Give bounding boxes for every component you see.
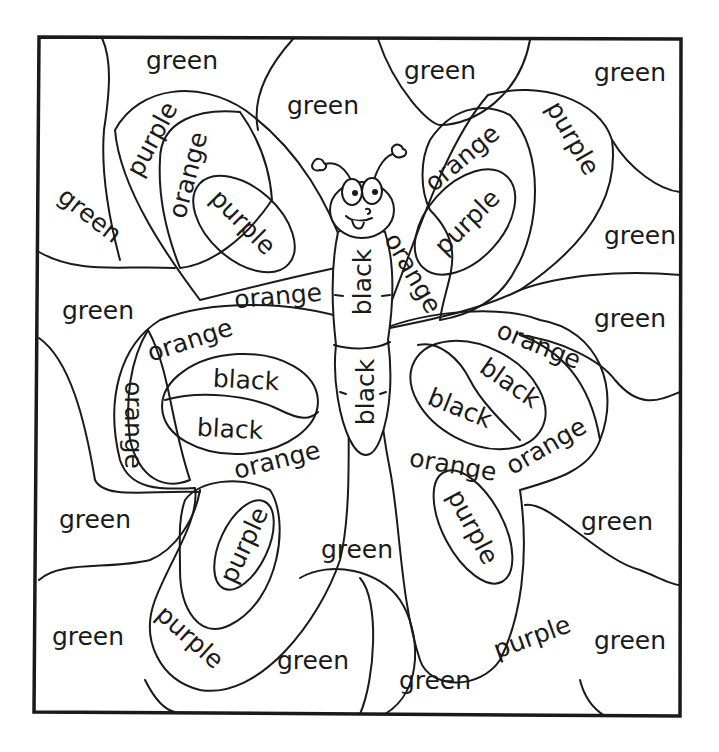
label-green: green <box>321 535 393 564</box>
label-black: black <box>424 382 497 434</box>
label-purple: purple <box>150 599 229 674</box>
label-purple: purple <box>204 183 281 260</box>
label-green: green <box>594 626 666 655</box>
label-green: green <box>52 622 124 651</box>
label-green: green <box>404 56 476 85</box>
label-green: green <box>604 221 676 250</box>
label-purple: purple <box>214 503 274 588</box>
label-black: black <box>348 248 377 315</box>
label-black: black <box>196 413 264 445</box>
label-green: green <box>287 91 359 120</box>
label-orange: orange <box>119 381 148 469</box>
lower-left-wing <box>114 305 350 691</box>
label-black: black <box>212 364 280 396</box>
label-green: green <box>146 46 218 75</box>
label-purple: purple <box>540 96 605 180</box>
label-orange: orange <box>163 129 214 222</box>
label-green: green <box>59 505 131 534</box>
label-green: green <box>594 58 666 87</box>
butterfly-head <box>312 145 406 238</box>
label-orange: orange <box>501 411 592 480</box>
coloring-sheet: green green green green green green gree… <box>0 0 719 752</box>
label-orange: orange <box>419 119 505 198</box>
word-labels: green green green green green green gree… <box>52 46 676 695</box>
label-green: green <box>277 646 349 675</box>
label-orange: orange <box>233 278 323 315</box>
label-orange: orange <box>407 443 499 487</box>
label-purple: purple <box>441 485 504 569</box>
label-black: black <box>351 358 380 425</box>
label-green: green <box>399 666 471 695</box>
label-green: green <box>53 181 128 248</box>
label-green: green <box>62 296 134 325</box>
label-green: green <box>594 304 666 333</box>
label-green: green <box>581 507 653 536</box>
label-purple: purple <box>489 610 574 665</box>
